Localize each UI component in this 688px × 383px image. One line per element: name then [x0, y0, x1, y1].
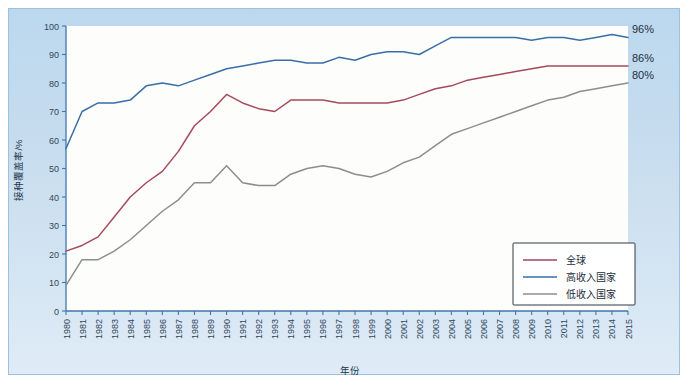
- y-tick-group: 0102030405060708090100: [44, 22, 66, 317]
- x-tick-label: 1984: [126, 319, 136, 339]
- y-tick-label: 20: [49, 250, 59, 260]
- x-tick-label: 2014: [607, 319, 617, 339]
- y-tick-label: 80: [49, 79, 59, 89]
- x-tick-label: 2006: [479, 319, 489, 339]
- legend-label-低收入国家: 低收入国家: [566, 288, 616, 300]
- x-tick-label: 2004: [447, 319, 457, 339]
- x-tick-label: 2015: [624, 319, 634, 339]
- x-tick-label: 1994: [286, 319, 296, 339]
- x-tick-label: 1988: [190, 319, 200, 339]
- x-tick-label: 1996: [318, 319, 328, 339]
- x-tick-label: 2008: [511, 319, 521, 339]
- x-tick-label: 2005: [463, 319, 473, 339]
- line-chart: 0102030405060708090100 19801981198219831…: [0, 0, 688, 383]
- x-tick-group: 1980198119821983198419851986198719881989…: [62, 311, 634, 339]
- x-tick-label: 1983: [110, 319, 120, 339]
- x-tick-label: 1997: [334, 319, 344, 339]
- x-tick-label: 2007: [495, 319, 505, 339]
- y-axis: 0102030405060708090100: [44, 22, 66, 317]
- end-value-label: 86%: [632, 52, 654, 64]
- x-tick-label: 1999: [367, 319, 377, 339]
- end-value-label: 80%: [632, 69, 654, 81]
- x-tick-label: 1986: [158, 319, 168, 339]
- x-tick-label: 1990: [222, 319, 232, 339]
- legend-label-全球: 全球: [566, 254, 586, 266]
- end-value-label: 96%: [632, 23, 654, 35]
- x-tick-label: 1992: [254, 319, 264, 339]
- x-tick-label: 2011: [559, 319, 569, 338]
- legend-label-高收入国家: 高收入国家: [566, 271, 616, 283]
- x-tick-label: 1998: [351, 319, 361, 339]
- y-axis-title: 接种覆盖率/%: [13, 139, 24, 201]
- x-axis: 1980198119821983198419851986198719881989…: [62, 311, 634, 339]
- y-tick-label: 60: [49, 136, 59, 146]
- x-tick-label: 2010: [543, 319, 553, 339]
- x-tick-label: 1985: [142, 319, 152, 339]
- x-tick-label: 1987: [174, 319, 184, 339]
- x-tick-label: 1989: [206, 319, 216, 339]
- y-tick-label: 40: [49, 193, 59, 203]
- x-tick-label: 2003: [431, 319, 441, 339]
- x-axis-title: 年份: [340, 365, 360, 376]
- x-tick-label: 1982: [94, 319, 104, 339]
- y-tick-label: 50: [49, 164, 59, 174]
- plot-area-wrapper: 0102030405060708090100 19801981198219831…: [0, 0, 688, 383]
- x-tick-label: 2001: [399, 319, 409, 339]
- x-tick-label: 1995: [302, 319, 312, 339]
- x-tick-label: 1980: [62, 319, 72, 339]
- x-tick-label: 2013: [591, 319, 601, 339]
- y-tick-label: 0: [54, 307, 59, 317]
- annotation-group: 96%86%80%: [632, 23, 654, 81]
- x-tick-label: 2002: [415, 319, 425, 339]
- legend[interactable]: 全球高收入国家低收入国家: [513, 243, 635, 305]
- y-tick-label: 70: [49, 107, 59, 117]
- x-tick-label: 2000: [383, 319, 393, 339]
- x-tick-label: 1993: [270, 319, 280, 339]
- x-tick-label: 2012: [575, 319, 585, 339]
- x-tick-label: 1991: [238, 319, 248, 339]
- figure-root: 0102030405060708090100 19801981198219831…: [0, 0, 688, 383]
- y-tick-label: 90: [49, 50, 59, 60]
- y-tick-label: 30: [49, 221, 59, 231]
- x-tick-label: 1981: [78, 319, 88, 339]
- x-tick-label: 2009: [527, 319, 537, 339]
- y-tick-label: 10: [49, 278, 59, 288]
- y-tick-label: 100: [44, 22, 59, 32]
